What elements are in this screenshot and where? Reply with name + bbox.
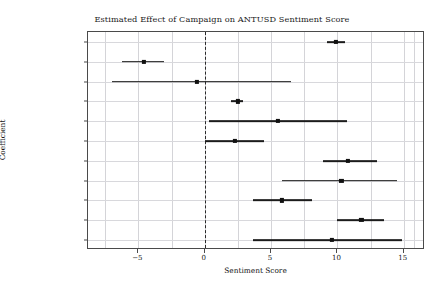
gridline-h-3	[88, 101, 423, 102]
estimate-point-marker	[233, 139, 237, 143]
y-tick-mark-3	[84, 101, 88, 102]
estimate-point-marker	[276, 119, 280, 123]
estimate-point-marker	[330, 238, 334, 242]
confidence-interval-bar	[253, 239, 403, 241]
y-tick-mark-4	[84, 121, 88, 122]
x-tick-label-4: 15	[398, 254, 407, 262]
y-tick-mark-7	[84, 180, 88, 181]
x-axis-title: Sentiment Score	[87, 266, 424, 275]
estimate-point-marker	[359, 218, 363, 222]
gridline-v-minor-1	[172, 32, 173, 248]
confidence-interval-bar	[112, 81, 291, 83]
gridline-v-0	[138, 32, 139, 248]
y-tick-mark-6	[84, 160, 88, 161]
x-tick-label-1: 0	[202, 254, 206, 262]
x-tick-mark-4	[403, 249, 404, 253]
x-tick-mark-3	[336, 249, 337, 253]
estimate-point-marker	[195, 79, 199, 83]
gridline-v-minor-3	[304, 32, 305, 248]
estimate-point-marker	[280, 198, 284, 202]
chart-title: Estimated Effect of Campaign on ANTUSD S…	[0, 14, 444, 24]
plot-area: India 1962Soviet 1969Vietnam 1974Vietnam…	[87, 31, 424, 249]
gridline-h-0	[88, 42, 423, 43]
gridline-v-2	[271, 32, 272, 248]
estimate-point-marker	[346, 159, 350, 163]
estimate-point-marker	[236, 99, 240, 103]
gridline-v-4	[404, 32, 405, 248]
y-tick-mark-9	[84, 220, 88, 221]
y-tick-mark-10	[84, 240, 88, 241]
gridline-v-3	[337, 32, 338, 248]
x-tick-mark-0	[137, 249, 138, 253]
estimate-point-marker	[339, 179, 343, 183]
gridline-v-minor-5	[414, 32, 415, 248]
forest-plot-figure: Estimated Effect of Campaign on ANTUSD S…	[0, 0, 444, 289]
x-tick-mark-2	[270, 249, 271, 253]
x-tick-label-3: 10	[332, 254, 341, 262]
y-tick-mark-2	[84, 81, 88, 82]
gridline-v-minor-4	[371, 32, 372, 248]
estimate-point-marker	[142, 60, 146, 64]
gridline-v-minor-0	[105, 32, 106, 248]
y-tick-mark-5	[84, 141, 88, 142]
x-tick-label-2: 5	[268, 254, 272, 262]
y-tick-mark-8	[84, 200, 88, 201]
x-tick-mark-1	[204, 249, 205, 253]
estimate-point-marker	[334, 40, 338, 44]
y-axis-title: Coefficient	[0, 120, 7, 161]
y-tick-mark-0	[84, 41, 88, 42]
x-tick-label-0: −5	[132, 254, 142, 262]
y-tick-mark-1	[84, 61, 88, 62]
